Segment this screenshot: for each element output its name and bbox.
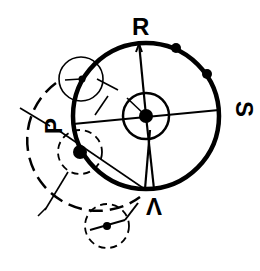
hub-dot	[139, 109, 153, 123]
rim-dot-2	[202, 69, 212, 79]
label-p: P	[40, 118, 67, 134]
bottom-link-dash	[125, 203, 138, 220]
pivot-dot-upper	[79, 76, 86, 83]
rim-dot-1	[171, 43, 181, 53]
label-r: R	[132, 13, 149, 40]
mechanism-diagram: R S P V	[0, 0, 260, 271]
label-v: V	[146, 193, 162, 220]
pivot-dot-left	[73, 145, 87, 159]
label-s: S	[231, 101, 258, 117]
